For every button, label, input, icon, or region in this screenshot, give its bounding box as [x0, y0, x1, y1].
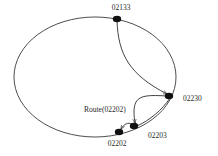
route-label: Route(02202) — [84, 105, 126, 114]
edge-02133-to-02230 — [117, 20, 167, 94]
node-label-02202: 02202 — [108, 139, 127, 148]
node-label-02230: 02230 — [183, 94, 202, 103]
node-label-02133: 02133 — [112, 3, 131, 12]
edge-02230-to-02203 — [134, 96, 167, 123]
chord-ring-diagram: 02133 02230 02203 02202 Route(02202) — [0, 0, 218, 156]
node-02202[interactable] — [115, 129, 123, 135]
node-02230[interactable] — [165, 93, 173, 99]
ring-arc-02230-02203 — [137, 98, 170, 126]
node-02133[interactable] — [113, 16, 121, 22]
node-02203[interactable] — [130, 123, 138, 129]
identifier-ring — [14, 17, 176, 137]
node-label-02203: 02203 — [148, 131, 167, 140]
